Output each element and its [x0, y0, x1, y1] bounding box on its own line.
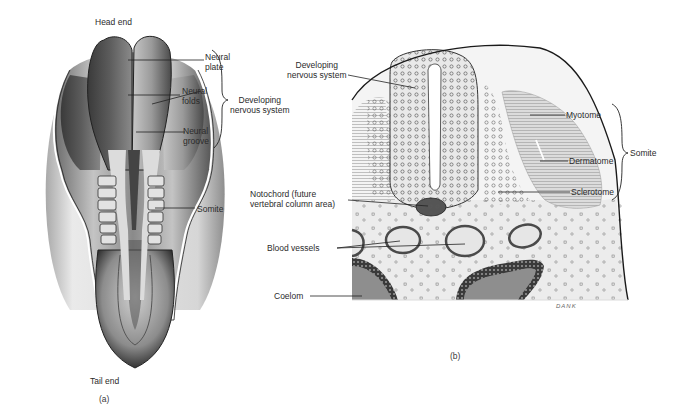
label-myotome: Myotome: [566, 110, 601, 120]
label-sclerotome: Sclerotome: [571, 187, 614, 197]
label-head-end: Head end: [95, 17, 132, 27]
label-coelom: Coelom: [274, 291, 303, 301]
label-somite-a: Somite: [197, 204, 223, 214]
cross-section: [310, 45, 628, 300]
label-developing-nervous-system-a: Developing nervous system: [230, 95, 290, 115]
label-neural-folds: Neural folds: [182, 86, 207, 106]
label-tail-end: Tail end: [90, 376, 119, 386]
label-dermatome: Dermatome: [569, 156, 613, 166]
label-blood-vessels: Blood vessels: [267, 243, 319, 253]
label-somite-b: Somite: [630, 148, 656, 158]
caption-a: (a): [99, 394, 109, 404]
label-neural-plate: Neural plate: [205, 52, 230, 72]
label-developing-nervous-system-b: Developing nervous system: [287, 60, 347, 80]
artist-signature: DANK: [556, 301, 577, 311]
label-neural-groove: Neural groove: [183, 126, 209, 146]
label-notochord: Notochord (future vertebral column area): [250, 189, 335, 209]
caption-b: (b): [450, 351, 460, 361]
neural-canal: [428, 64, 441, 190]
